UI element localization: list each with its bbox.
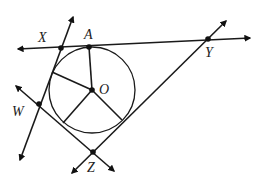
line-wz: [16, 86, 114, 171]
label-x: X: [37, 30, 47, 45]
point-w: [36, 101, 42, 107]
label-w: W: [12, 104, 25, 119]
label-y: Y: [205, 45, 215, 60]
point-y: [205, 36, 211, 42]
line-xy: [18, 38, 250, 49]
label-o: O: [99, 82, 109, 97]
point-x: [58, 45, 64, 51]
geometry-diagram: X A Y O W Z: [0, 0, 262, 184]
label-a: A: [83, 27, 93, 42]
radius-o-left: [52, 72, 92, 90]
radius-o-lowerleft: [63, 90, 92, 123]
label-z: Z: [87, 160, 95, 175]
radius-oa: [89, 47, 92, 90]
point-z: [90, 149, 96, 155]
point-o: [89, 87, 95, 93]
point-a: [86, 44, 92, 50]
